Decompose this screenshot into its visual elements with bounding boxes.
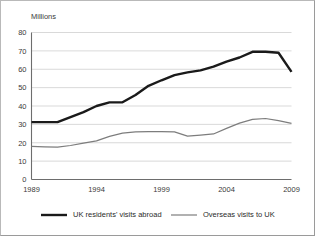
y-axis: 01020304050607080 [18, 28, 31, 184]
x-axis: 19891994199920042009 [23, 180, 300, 194]
y-tick-label-60: 60 [18, 65, 26, 74]
legend-label-0: UK residents' visits abroad [73, 210, 162, 219]
y-tick-label-30: 30 [18, 120, 26, 129]
x-tick-label-1989: 1989 [23, 185, 40, 194]
y-tick-label-10: 10 [18, 157, 26, 166]
y-tick-label-40: 40 [18, 102, 26, 111]
y-tick-label-80: 80 [18, 28, 26, 37]
y-tick-label-0: 0 [22, 175, 26, 184]
y-tick-label-20: 20 [18, 139, 26, 148]
x-tick-label-2004: 2004 [218, 185, 235, 194]
chart-figure: 01020304050607080 19891994199920042009 M… [0, 0, 315, 236]
x-tick-label-1994: 1994 [88, 185, 105, 194]
legend-label-1: Overseas visits to UK [203, 210, 275, 219]
series-line-0 [32, 52, 292, 122]
chart-legend: UK residents' visits abroadOverseas visi… [41, 210, 275, 219]
series-lines [32, 52, 292, 147]
y-tick-label-50: 50 [18, 83, 26, 92]
y-axis-title: Millions [31, 12, 56, 21]
y-tick-label-70: 70 [18, 47, 26, 56]
x-tick-label-1999: 1999 [153, 185, 170, 194]
x-tick-label-2009: 2009 [283, 185, 300, 194]
line-chart: 01020304050607080 19891994199920042009 M… [1, 1, 315, 236]
y-axis-title-group: Millions [31, 12, 56, 21]
